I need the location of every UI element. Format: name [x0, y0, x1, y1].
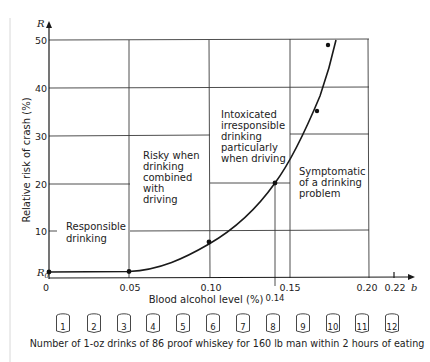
region-intoxicated: Intoxicated irresponsible drinking parti… — [221, 109, 286, 164]
glass-icon: 10 — [327, 314, 340, 333]
svg-text:0: 0 — [43, 282, 49, 293]
region-symptomatic: Symptomatic of a drinking problem — [299, 166, 365, 199]
svg-text:irresponsible: irresponsible — [221, 120, 285, 131]
svg-text:Risky when: Risky when — [143, 150, 199, 161]
x-axis-label: Blood alcohol level (%) — [149, 294, 264, 305]
svg-text:5: 5 — [180, 322, 185, 332]
glass-icon: 11 — [356, 314, 369, 333]
glass-icon: 8 — [267, 314, 280, 333]
svg-text:3: 3 — [121, 322, 126, 332]
svg-text:when driving: when driving — [221, 153, 286, 164]
glass-icon: 4 — [147, 314, 160, 333]
svg-text:7: 7 — [240, 322, 245, 332]
y-axis-label: Relative risk of crash (%) — [21, 97, 32, 222]
svg-text:8: 8 — [270, 322, 275, 332]
svg-text:20: 20 — [35, 179, 47, 190]
svg-text:12: 12 — [387, 322, 398, 332]
r0-label: R0 — [36, 267, 50, 280]
data-point — [326, 43, 330, 47]
svg-text:driving: driving — [143, 194, 178, 205]
svg-text:Symptomatic: Symptomatic — [299, 166, 365, 177]
svg-text:11: 11 — [357, 322, 368, 332]
glass-icon: 5 — [177, 314, 190, 333]
risk-chart: 50 40 30 20 10 R R0 Relative risk of cra… — [0, 0, 430, 362]
svg-text:40: 40 — [35, 83, 47, 94]
svg-text:2: 2 — [91, 322, 96, 332]
svg-text:1: 1 — [60, 322, 65, 332]
svg-text:10: 10 — [35, 226, 47, 237]
svg-text:particularly: particularly — [221, 142, 278, 153]
data-point — [207, 240, 212, 245]
region-risky: Risky when drinking combined with drivin… — [143, 150, 199, 205]
data-point — [315, 109, 319, 113]
svg-text:0.22: 0.22 — [384, 282, 405, 293]
glass-icon: 9 — [297, 314, 310, 333]
svg-text:0.15: 0.15 — [279, 282, 300, 293]
glass-icon: 2 — [88, 314, 101, 333]
glass-icon: 1 — [57, 314, 70, 333]
svg-text:drinking: drinking — [143, 161, 184, 172]
svg-text:Responsible: Responsible — [66, 221, 126, 232]
glass-icon: 6 — [207, 314, 220, 333]
glass-icon: 12 — [386, 314, 399, 333]
svg-text:0.14: 0.14 — [266, 293, 285, 303]
svg-text:0.10: 0.10 — [200, 282, 221, 293]
drinks-caption: Number of 1-oz drinks of 86 proof whiske… — [30, 338, 425, 349]
y-axis-symbol: R — [36, 18, 45, 29]
x-axis-arrow-icon — [408, 274, 415, 280]
svg-text:10: 10 — [328, 322, 339, 332]
svg-text:problem: problem — [299, 188, 340, 199]
svg-text:with: with — [143, 183, 164, 194]
svg-text:50: 50 — [35, 35, 47, 46]
svg-text:0.20: 0.20 — [356, 282, 377, 293]
svg-text:0.05: 0.05 — [119, 282, 140, 293]
svg-text:6: 6 — [210, 322, 215, 332]
svg-text:Intoxicated: Intoxicated — [221, 109, 277, 120]
glass-icon: 3 — [118, 314, 131, 333]
y-axis-arrow-icon — [46, 21, 52, 28]
x-axis-symbol: b — [411, 282, 417, 293]
svg-text:drinking: drinking — [66, 233, 107, 244]
data-point — [273, 181, 278, 186]
svg-text:30: 30 — [35, 131, 47, 142]
glass-icon: 7 — [237, 314, 250, 333]
data-point — [127, 269, 132, 274]
y-tick-labels: 50 40 30 20 10 — [35, 35, 47, 237]
svg-text:combined: combined — [143, 172, 192, 183]
svg-text:drinking: drinking — [221, 131, 262, 142]
region-responsible: Responsible drinking — [66, 221, 126, 244]
svg-text:9: 9 — [300, 322, 305, 332]
svg-text:of a drinking: of a drinking — [299, 177, 362, 188]
grid — [49, 39, 369, 286]
svg-text:4: 4 — [150, 322, 155, 332]
drinks-scale: 1 2 3 4 5 6 7 8 9 10 11 12 — [57, 314, 399, 333]
x-axis — [49, 277, 412, 278]
